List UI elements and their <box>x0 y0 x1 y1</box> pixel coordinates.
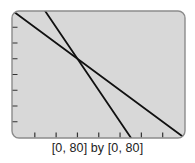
calculator-screen <box>11 10 186 139</box>
window-caption: [0, 80] by [0, 80] <box>0 141 195 155</box>
graph-plot <box>11 10 186 139</box>
